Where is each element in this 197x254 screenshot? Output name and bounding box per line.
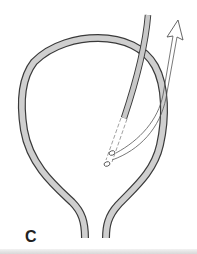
catheter-dashed-tip (106, 118, 127, 162)
catheter-eyelets (103, 150, 115, 167)
catheter-tube (124, 15, 148, 118)
page-edge-bar (0, 249, 197, 254)
panel-label: C (25, 229, 37, 245)
bladder-wall (22, 38, 164, 238)
bladder-diagram (0, 0, 197, 254)
